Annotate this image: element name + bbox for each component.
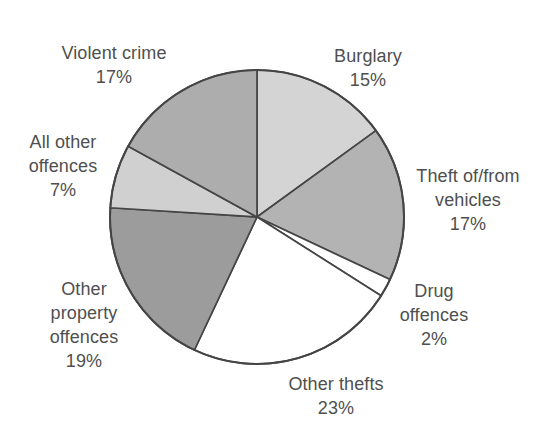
label-theft-vehicles: Theft of/from vehicles 17%: [393, 164, 543, 236]
label-violent-crime: Violent crime 17%: [34, 41, 194, 89]
pie-chart-figure: Burglary 15% Theft of/from vehicles 17% …: [0, 0, 547, 439]
label-drug-offences: Drug offences 2%: [374, 279, 494, 351]
label-burglary: Burglary 15%: [288, 44, 448, 92]
label-other-property-offences: Other property offences 19%: [14, 277, 154, 373]
label-other-thefts: Other thefts 23%: [256, 372, 416, 420]
label-all-other-offences: All other offences 7%: [3, 130, 123, 202]
